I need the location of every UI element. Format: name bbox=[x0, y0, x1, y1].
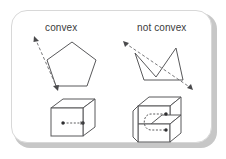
pentagon-arrow-head-bottom bbox=[53, 85, 59, 91]
non-convex-arrow-head-bottom bbox=[187, 84, 193, 90]
diagram-canvas bbox=[11, 10, 212, 143]
pentagon-outline bbox=[47, 42, 96, 86]
shape-pentagon bbox=[34, 36, 97, 91]
cube-front-face bbox=[51, 108, 83, 136]
non-convex-arrow-head-top bbox=[123, 41, 129, 47]
shape-notched-cube bbox=[133, 97, 181, 142]
notched-cube-lower-front-face bbox=[138, 124, 170, 142]
notched-cube-point-a bbox=[164, 112, 167, 115]
shape-non-convex-polygon bbox=[123, 41, 193, 90]
shape-cube bbox=[51, 99, 95, 136]
non-convex-polygon-outline bbox=[135, 48, 183, 80]
notched-cube-point-b bbox=[164, 128, 167, 131]
pentagon-arrow-head-top bbox=[34, 36, 40, 42]
convex-vs-not-convex-figure: convex not convex bbox=[0, 0, 226, 159]
notched-cube-left-face bbox=[133, 106, 138, 142]
cube-point-a bbox=[61, 121, 64, 124]
non-convex-dashed-line bbox=[125, 43, 191, 88]
